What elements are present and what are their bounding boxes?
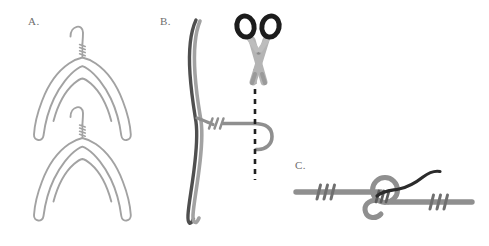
panel-b-label: B. <box>160 15 171 27</box>
panel-c-label: C. <box>295 159 306 171</box>
scissor-tip-right <box>252 74 255 83</box>
diagram-svg: A. <box>0 0 489 246</box>
figure-canvas: A. <box>0 0 489 246</box>
panel-a-label: A. <box>28 15 40 27</box>
scissor-tip-left <box>262 74 265 83</box>
